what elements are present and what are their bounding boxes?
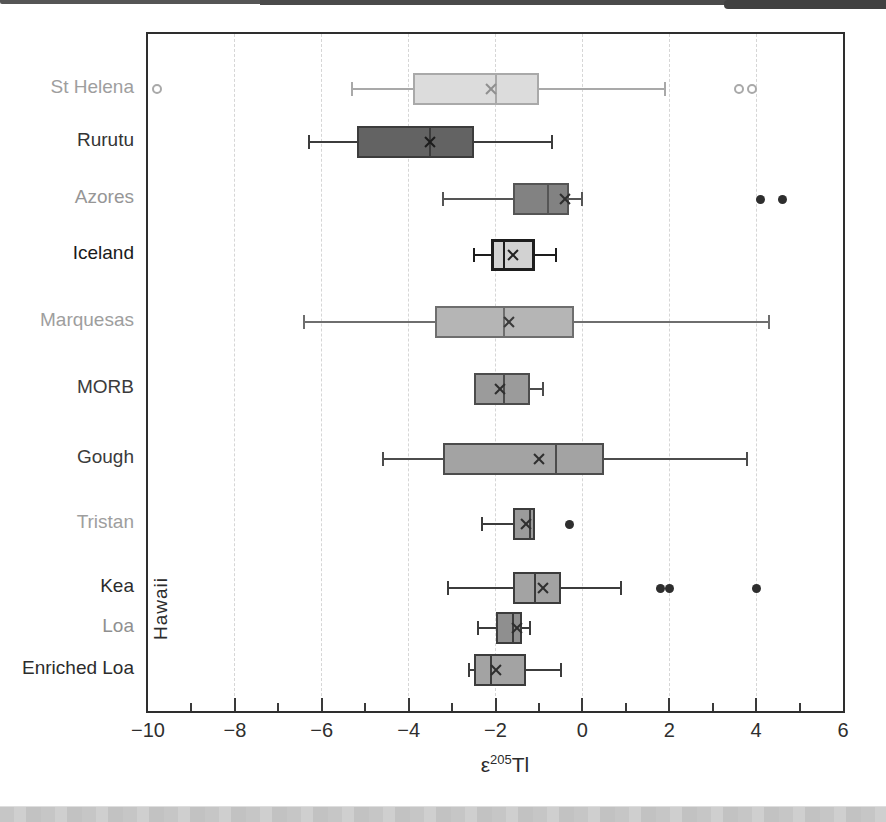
outlier-point-tristan-0 [565,520,574,529]
x-tick-label-2: 2 [637,719,701,742]
category-label-azores: Azores [0,186,134,208]
whisker-cap-high-azores [581,192,583,206]
category-label-morb: MORB [0,376,134,398]
whisker-cap-high-rurutu [551,135,553,149]
whisker-cap-high-iceland [555,248,557,262]
category-label-loa: Loa [0,615,134,637]
x-major-tick-2 [668,698,670,711]
x-axis-title-epsilon: ε [481,753,490,776]
x-major-tick--8 [234,698,236,711]
whisker-cap-low-marquesas [303,315,305,329]
median-line-azores [547,185,549,213]
gridline-4 [756,34,757,711]
category-label-gough: Gough [0,446,134,468]
mean-marker-azores [558,192,572,206]
x-tick-label-6: 6 [811,719,875,742]
mean-marker-tristan [519,517,533,531]
x-axis-title-element: Tl [512,753,530,776]
whisker-cap-low-iceland [473,248,475,262]
page-scan-edge-top-right [724,0,886,9]
x-minor-tick--7 [277,703,279,711]
x-minor-tick-1 [625,703,627,711]
outlier-point-st-helena-2 [747,84,757,94]
x-minor-tick--9 [190,703,192,711]
outlier-point-azores-1 [778,195,787,204]
mean-marker-gough [532,452,546,466]
whisker-cap-high-marquesas [768,315,770,329]
x-tick-label--8: −8 [203,719,267,742]
whisker-cap-low-st-helena [351,82,353,96]
gridline--6 [321,34,322,711]
median-line-kea [534,574,536,602]
median-line-iceland [503,242,505,268]
category-label-st-helena: St Helena [0,76,134,98]
gridline-2 [669,34,670,711]
x-major-tick-0 [581,698,583,711]
category-label-enriched-loa: Enriched Loa [0,657,134,679]
mean-marker-loa [510,621,524,635]
mean-marker-kea [536,581,550,595]
x-minor-tick-5 [799,703,801,711]
whisker-cap-high-loa [529,621,531,635]
mean-marker-rurutu [423,135,437,149]
x-axis-title-superscript: 205 [490,752,512,767]
whisker-cap-high-kea [620,581,622,595]
whisker-cap-low-tristan [481,517,483,531]
whisker-cap-high-gough [746,452,748,466]
mean-marker-iceland [506,248,520,262]
outlier-point-kea-0 [656,584,665,593]
box-rurutu [357,126,474,158]
outlier-point-kea-2 [752,584,761,593]
x-tick-label-4: 4 [724,719,788,742]
x-axis-title: ε205Tl [435,752,575,777]
category-label-iceland: Iceland [0,242,134,264]
mean-marker-st-helena [484,82,498,96]
whisker-cap-low-rurutu [308,135,310,149]
gridline-0 [582,34,583,711]
whisker-cap-low-loa [477,621,479,635]
outlier-point-st-helena-1 [734,84,744,94]
x-minor-tick--3 [451,703,453,711]
group-label-hawaii: Hawaii [150,548,176,668]
outlier-point-azores-0 [756,195,765,204]
mean-marker-marquesas [502,315,516,329]
x-tick-label--10: −10 [116,719,180,742]
mean-marker-morb [493,382,507,396]
x-tick-label--4: −4 [377,719,441,742]
box-gough [443,443,604,475]
x-minor-tick--5 [364,703,366,711]
plot-area [146,32,845,713]
whisker-cap-high-morb [542,382,544,396]
mean-marker-enriched-loa [489,663,503,677]
category-label-kea: Kea [0,575,134,597]
outlier-point-kea-1 [665,584,674,593]
x-tick-label--6: −6 [290,719,354,742]
page-scan-edge-bottom [0,806,886,822]
whisker-cap-low-azores [442,192,444,206]
whisker-cap-low-enriched-loa [468,663,470,677]
category-label-rurutu: Rurutu [0,129,134,151]
median-line-gough [555,445,557,473]
category-label-marquesas: Marquesas [0,309,134,331]
x-major-tick-4 [755,698,757,711]
whisker-cap-high-enriched-loa [560,663,562,677]
whisker-cap-low-kea [447,581,449,595]
x-major-tick--2 [495,698,497,711]
gridline--8 [234,34,235,711]
category-label-tristan: Tristan [0,511,134,533]
x-minor-tick-3 [712,703,714,711]
x-tick-label--2: −2 [464,719,528,742]
whisker-cap-high-st-helena [664,82,666,96]
page-scan-edge-top-mid [260,0,730,5]
x-major-tick--4 [408,698,410,711]
whisker-cap-low-gough [382,452,384,466]
outlier-point-st-helena-0 [152,84,162,94]
box-st-helena [413,73,539,105]
x-tick-label-0: 0 [550,719,614,742]
x-minor-tick--1 [538,703,540,711]
x-major-tick--6 [321,698,323,711]
